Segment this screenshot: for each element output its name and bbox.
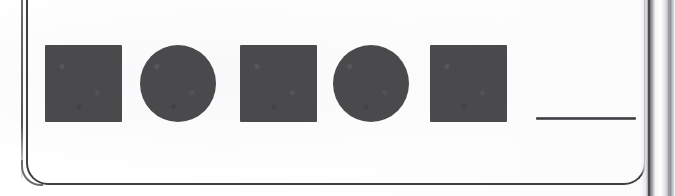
scanner-gutter-edge [641, 0, 675, 196]
scanner-edge-line-outer [668, 0, 670, 196]
sequence-shape-square-1 [45, 45, 122, 122]
sequence-shape-circle-2 [333, 45, 409, 122]
sequence-shape-circle-1 [140, 45, 216, 122]
frame-inner-curl-left [21, 160, 43, 186]
scanned-worksheet-page: A pattern of five dark shapes: square, c… [0, 0, 675, 196]
sequence-shape-square-3 [430, 45, 507, 122]
frame-inner-rule-left [21, 0, 23, 178]
sequence-shape-square-2 [240, 45, 317, 122]
blank-answer-line[interactable] [536, 117, 636, 120]
scanner-edge-line-inner [648, 0, 650, 196]
shape-sequence [45, 45, 515, 122]
